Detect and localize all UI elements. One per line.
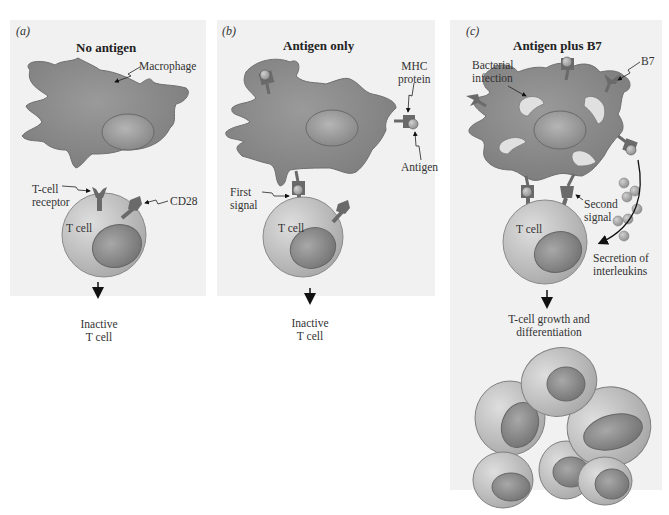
macrophage-a [22,58,188,168]
label-outcome-c: T-cell growth and differentiation [497,313,601,339]
macrophage-b [226,59,396,186]
panel-letter-b: (b) [222,24,236,39]
label-outcome-a: Inactive T cell [77,318,121,344]
macrophage-nucleus-b [306,110,358,146]
label-mhc-b: MHC protein [398,60,431,86]
tcell-b [263,197,343,277]
first-signal-pointer-b [262,192,289,196]
antigen-pointer-b [415,132,421,160]
label-macrophage-a: Macrophage [139,60,196,73]
label-tcell-c: T cell [516,223,542,236]
label-tcell-a: T cell [66,222,92,235]
mhc-antigen-right-b [394,115,418,129]
macrophage-nucleus-a [102,114,154,150]
panel-title-a: No antigen [76,40,136,56]
diagram-art [0,0,669,515]
panel-letter-a: (a) [16,24,30,39]
cd28-pointer-a [145,200,168,204]
daughter-cell [473,452,533,508]
macrophage-nucleus-c [534,111,586,149]
mhc-pointer-b [408,83,414,112]
panel-letter-c: (c) [466,24,479,39]
panel-title-c: Antigen plus B7 [513,38,602,54]
label-tcell-b: T cell [278,222,304,235]
label-first-signal-b: First signal [230,186,257,212]
label-antigen-b: Antigen [401,161,438,174]
label-tcr-a: T-cell receptor [32,183,70,209]
label-bacterial-infection-c: Bacterial infection [472,59,514,85]
proliferating-tcells [473,339,662,508]
daughter-cell [578,457,632,505]
label-secretion-c: Secretion of interleukins [593,252,649,278]
tcell-c [503,200,587,284]
label-b7-c: B7 [641,55,654,68]
second-signal-pointer-c [576,195,583,200]
panel-title-b: Antigen only [283,38,354,54]
mhc-antigen-right-c [618,136,638,155]
label-outcome-b: Inactive T cell [288,317,332,343]
label-second-signal-c: Second signal [584,198,618,224]
cd28-receptor-b [333,200,350,222]
label-cd28-a: CD28 [170,195,197,208]
